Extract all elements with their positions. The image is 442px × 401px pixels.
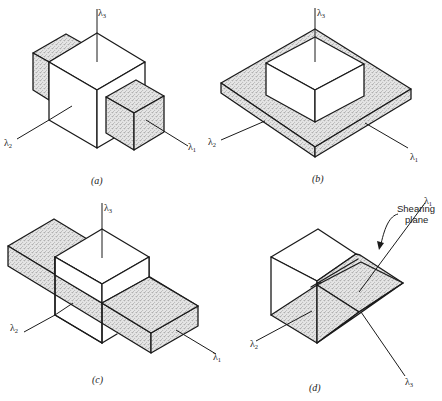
panel-c: λ3 λ2 λ1 (c) <box>8 202 221 386</box>
svg-text:λ1: λ1 <box>213 351 221 363</box>
caption-c: (c) <box>92 374 104 386</box>
axis-lambda1-c <box>176 330 216 354</box>
caption-d: (d) <box>309 382 321 394</box>
svg-text:λ3: λ3 <box>405 376 413 388</box>
svg-text:λ3: λ3 <box>98 7 106 19</box>
axis-lambda2-c <box>24 315 55 332</box>
svg-text:λ2: λ2 <box>4 137 12 149</box>
annotation-plane: plane <box>405 214 428 225</box>
svg-text:λ3: λ3 <box>317 7 325 19</box>
panel-d: Shearing plane λ1 λ2 λ3 (d) <box>250 195 435 394</box>
svg-text:λ1: λ1 <box>424 195 432 207</box>
caption-b: (b) <box>312 173 324 185</box>
svg-text:λ1: λ1 <box>410 151 418 163</box>
panel-b: λ3 λ1 (b) <box>221 7 418 185</box>
panel-a: λ3 λ2 λ1 (a) <box>4 7 196 187</box>
svg-text:λ1: λ1 <box>188 141 196 153</box>
svg-text:λ2: λ2 <box>208 136 216 148</box>
svg-text:λ2: λ2 <box>10 322 18 334</box>
axis-lambda3-d <box>361 312 405 376</box>
shearing-plane-arrow <box>381 214 398 244</box>
axis-lambda1-b <box>365 123 408 148</box>
svg-text:λ3: λ3 <box>104 202 112 214</box>
axis-lambda2-b <box>221 121 265 140</box>
strain-diagrams: λ3 λ2 λ1 (a) λ3 λ1 (b) λ2 <box>0 0 442 401</box>
svg-text:λ2: λ2 <box>250 338 258 350</box>
caption-a: (a) <box>91 175 103 187</box>
axis-lambda2-a <box>17 120 49 139</box>
